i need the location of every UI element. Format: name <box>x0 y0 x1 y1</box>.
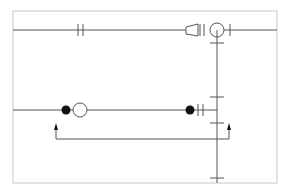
flow-arrow-up-icon <box>227 123 231 130</box>
flange-pair-icon <box>200 24 204 36</box>
valve-closed-icon <box>186 106 195 115</box>
reducer-icon <box>186 24 198 36</box>
valve-closed-icon <box>62 106 71 115</box>
diagram-frame <box>13 11 277 183</box>
return-loop <box>56 128 229 139</box>
piping-diagram <box>0 0 288 194</box>
flow-arrow-up-icon <box>54 123 58 130</box>
pump-icon <box>73 103 87 117</box>
vertical-riser <box>210 30 224 183</box>
